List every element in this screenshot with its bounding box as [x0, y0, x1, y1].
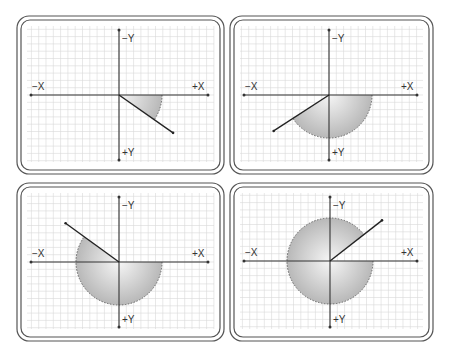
axis-end-dot	[329, 196, 332, 199]
axis-end-dot	[416, 94, 419, 97]
label-neg-y: −Y	[122, 200, 135, 211]
label-neg-x: −X	[245, 81, 258, 92]
ray-end-dot	[172, 132, 175, 135]
label-neg-y: −Y	[332, 33, 345, 44]
ray-end-dot	[381, 219, 384, 222]
label-pos-y: +Y	[332, 147, 345, 158]
axis-end-dot	[118, 159, 121, 162]
panel-4: −X+X−Y+Y	[230, 183, 433, 341]
axis-end-dot	[118, 326, 121, 329]
label-neg-x: −X	[32, 248, 45, 259]
axis-end-dot	[207, 261, 210, 264]
panel-2: −X+X−Y+Y	[230, 16, 433, 174]
axis-end-dot	[243, 94, 246, 97]
axis-end-dot	[30, 261, 33, 264]
axis-end-dot	[118, 29, 121, 32]
axis-end-dot	[329, 326, 332, 329]
label-pos-x: +X	[401, 247, 414, 258]
axis-end-dot	[328, 29, 331, 32]
angle-diagram: −X+X−Y+Y−X+X−Y+Y−X+X−Y+Y−X+X−Y+Y	[0, 0, 450, 359]
label-neg-x: −X	[32, 81, 45, 92]
grid	[27, 26, 214, 162]
axis-end-dot	[207, 94, 210, 97]
axis-end-dot	[30, 94, 33, 97]
panel-1: −X+X−Y+Y	[17, 16, 224, 174]
axis-end-dot	[328, 159, 331, 162]
axis-end-dot	[243, 260, 246, 263]
ray-end-dot	[64, 222, 67, 225]
label-pos-x: +X	[192, 248, 205, 259]
label-pos-y: +Y	[333, 314, 346, 325]
label-pos-x: +X	[401, 81, 414, 92]
label-pos-y: +Y	[122, 147, 135, 158]
label-neg-y: −Y	[333, 200, 346, 211]
label-pos-y: +Y	[122, 314, 135, 325]
axis-end-dot	[118, 196, 121, 199]
grid	[240, 26, 423, 162]
ray-end-dot	[272, 130, 275, 133]
label-neg-y: −Y	[122, 33, 135, 44]
label-neg-x: −X	[245, 247, 258, 258]
grid	[27, 193, 214, 329]
panel-3: −X+X−Y+Y	[17, 183, 224, 341]
axis-end-dot	[416, 260, 419, 263]
label-pos-x: +X	[192, 81, 205, 92]
